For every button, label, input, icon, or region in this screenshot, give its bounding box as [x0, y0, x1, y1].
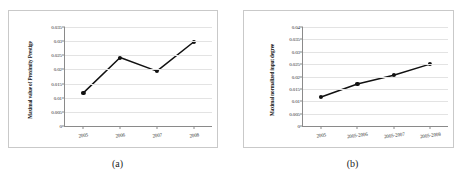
y-tick-label: 0.005: [51, 109, 62, 114]
y-tick-mark: [62, 41, 65, 42]
x-tick-label: 2005-2008: [420, 132, 441, 139]
y-tick-mark: [300, 88, 303, 89]
figure-panel-b: Maximal normalized input degree 00.0050.…: [235, 0, 470, 184]
x-tick-mark: [357, 126, 358, 129]
x-tick-label: 2008: [189, 132, 199, 138]
x-tick-label: 2005: [79, 132, 89, 138]
y-tick-mark: [300, 101, 303, 102]
y-tick-label: 0.02: [54, 67, 62, 72]
plot-area-a: 00.0050.010.0150.020.0250.030.0352005200…: [64, 27, 212, 127]
y-tick-mark: [300, 76, 303, 77]
x-tick-mark: [83, 126, 84, 129]
panel-caption-b: (b): [235, 158, 470, 169]
y-tick-label: 0.04: [292, 25, 300, 30]
chart-frame-a: Maximal value of Proximity Prestige 00.0…: [8, 10, 218, 148]
gridline: [303, 27, 448, 28]
y-tick-label: 0.025: [289, 62, 300, 67]
x-tick-label: 2005-2007: [383, 132, 404, 139]
y-tick-mark: [300, 27, 303, 28]
y-tick-mark: [300, 126, 303, 127]
chart-frame-b: Maximal normalized input degree 00.0050.…: [243, 10, 454, 148]
y-tick-label: 0: [298, 124, 300, 129]
x-tick-mark: [321, 126, 322, 129]
y-tick-label: 0.01: [292, 99, 300, 104]
x-tick-mark: [156, 126, 157, 129]
y-tick-label: 0.035: [289, 37, 300, 42]
gridline: [65, 55, 212, 56]
gridline: [65, 84, 212, 85]
gridline: [65, 27, 212, 28]
y-tick-mark: [62, 83, 65, 84]
y-tick-mark: [300, 39, 303, 40]
y-tick-mark: [62, 111, 65, 112]
gridline: [303, 101, 448, 102]
y-axis-title-a: Maximal value of Proximity Prestige: [27, 32, 33, 128]
gridline: [65, 69, 212, 70]
y-tick-label: 0.015: [289, 86, 300, 91]
gridline: [303, 64, 448, 65]
y-tick-mark: [300, 64, 303, 65]
x-tick-label: 2005-2006: [347, 132, 368, 139]
x-tick-mark: [193, 126, 194, 129]
gridline: [65, 98, 212, 99]
y-tick-mark: [62, 55, 65, 56]
y-tick-label: 0: [60, 124, 62, 129]
y-tick-label: 0.035: [51, 25, 62, 30]
gridline: [303, 52, 448, 53]
gridline: [65, 41, 212, 42]
gridline: [303, 39, 448, 40]
figure-container: Maximal value of Proximity Prestige 00.0…: [0, 0, 470, 184]
y-tick-mark: [300, 113, 303, 114]
y-tick-label: 0.02: [292, 74, 300, 79]
y-tick-mark: [300, 51, 303, 52]
y-tick-label: 0.01: [54, 95, 62, 100]
y-tick-label: 0.03: [54, 39, 62, 44]
gridline: [303, 89, 448, 90]
y-tick-mark: [62, 69, 65, 70]
y-tick-label: 0.015: [51, 81, 62, 86]
x-tick-mark: [429, 126, 430, 129]
y-axis-title-b: Maximal normalized input degree: [269, 32, 275, 128]
y-tick-mark: [62, 27, 65, 28]
plot-area-b: 00.0050.010.0150.020.0250.030.0350.04200…: [302, 27, 448, 127]
y-tick-mark: [62, 97, 65, 98]
x-tick-mark: [120, 126, 121, 129]
y-tick-label: 0.025: [51, 53, 62, 58]
y-tick-label: 0.005: [289, 111, 300, 116]
gridline: [303, 77, 448, 78]
x-tick-mark: [393, 126, 394, 129]
y-tick-label: 0.03: [292, 49, 300, 54]
figure-panel-a: Maximal value of Proximity Prestige 00.0…: [0, 0, 235, 184]
y-tick-mark: [62, 126, 65, 127]
x-tick-label: 2006: [115, 132, 125, 138]
gridline: [65, 112, 212, 113]
x-tick-label: 2007: [152, 132, 162, 138]
panel-caption-a: (a): [0, 158, 235, 169]
x-tick-label: 2005: [316, 132, 326, 138]
gridline: [303, 114, 448, 115]
